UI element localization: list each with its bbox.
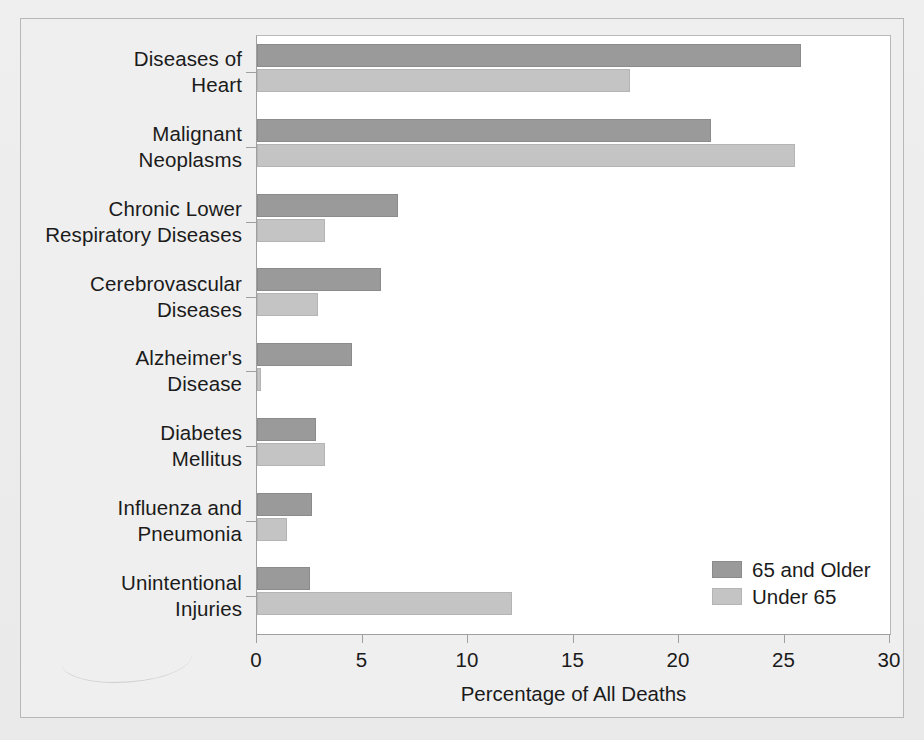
- category-axis-tick: [246, 72, 256, 73]
- value-axis-ticks: [256, 635, 891, 645]
- category-label-line: Alzheimer's: [30, 345, 242, 371]
- category-label: Influenza andPneumonia: [30, 495, 242, 547]
- category-axis-tick: [246, 521, 256, 522]
- value-axis-tick-label: 10: [456, 648, 479, 672]
- category-label-line: Respiratory Diseases: [30, 222, 242, 248]
- bar-older: [257, 567, 310, 590]
- value-axis-tick-label: 25: [772, 648, 795, 672]
- bar-under: [257, 69, 630, 92]
- category-axis-labels: Diseases ofHeartMalignantNeoplasmsChroni…: [30, 35, 252, 635]
- bar-group: [257, 485, 890, 560]
- bar-older: [257, 493, 312, 516]
- category-label-line: Injuries: [30, 596, 242, 622]
- value-axis-tick: [467, 635, 468, 643]
- value-axis-tick-label: 30: [878, 648, 901, 672]
- bar-under: [257, 219, 325, 242]
- bar-under: [257, 144, 795, 167]
- bar-group: [257, 260, 890, 335]
- legend: 65 and OlderUnder 65: [712, 556, 882, 610]
- category-label-line: Diabetes: [30, 420, 242, 446]
- figure-scan: Diseases ofHeartMalignantNeoplasmsChroni…: [0, 0, 924, 740]
- category-label: Alzheimer'sDisease: [30, 345, 242, 397]
- value-axis-title: Percentage of All Deaths: [256, 682, 891, 706]
- category-label-line: Chronic Lower: [30, 196, 242, 222]
- legend-item: Under 65: [712, 583, 882, 610]
- value-axis-tick: [362, 635, 363, 643]
- bar-group: [257, 111, 890, 186]
- legend-swatch-older: [712, 561, 742, 578]
- category-label-line: Neoplasms: [30, 147, 242, 173]
- bar-under: [257, 368, 261, 391]
- category-label-line: Mellitus: [30, 446, 242, 472]
- category-label: UnintentionalInjuries: [30, 570, 242, 622]
- category-label: MalignantNeoplasms: [30, 121, 242, 173]
- category-label-line: Unintentional: [30, 570, 242, 596]
- category-label: Chronic LowerRespiratory Diseases: [30, 196, 242, 248]
- bars-layer: [257, 36, 890, 634]
- category-axis-tick: [246, 222, 256, 223]
- bar-group: [257, 36, 890, 111]
- bar-under: [257, 293, 318, 316]
- plot-area: [256, 35, 891, 635]
- legend-swatch-under: [712, 588, 742, 605]
- bar-older: [257, 343, 352, 366]
- value-axis-tick: [889, 635, 890, 643]
- bar-group: [257, 335, 890, 410]
- category-axis-tick: [246, 147, 256, 148]
- bar-group: [257, 186, 890, 261]
- category-label: DiabetesMellitus: [30, 420, 242, 472]
- category-axis-tick: [246, 596, 256, 597]
- bar-under: [257, 592, 512, 615]
- value-axis-tick-label: 5: [356, 648, 367, 672]
- category-axis-tick: [246, 371, 256, 372]
- category-label-line: Pneumonia: [30, 521, 242, 547]
- category-label-line: Cerebrovascular: [30, 271, 242, 297]
- value-axis-tick-label: 20: [667, 648, 690, 672]
- value-axis-tick-label: 0: [250, 648, 261, 672]
- legend-item: 65 and Older: [712, 556, 882, 583]
- category-axis-tick: [246, 297, 256, 298]
- value-axis-tick-label: 15: [561, 648, 584, 672]
- legend-label: Under 65: [752, 585, 836, 609]
- bar-older: [257, 194, 398, 217]
- legend-label: 65 and Older: [752, 558, 871, 582]
- bar-under: [257, 518, 287, 541]
- bar-older: [257, 119, 711, 142]
- bar-older: [257, 418, 316, 441]
- value-axis-tick: [784, 635, 785, 643]
- category-label-line: Disease: [30, 371, 242, 397]
- category-label: CerebrovascularDiseases: [30, 271, 242, 323]
- category-label-line: Diseases: [30, 297, 242, 323]
- category-label-line: Heart: [30, 72, 242, 98]
- value-axis-tick: [573, 635, 574, 643]
- value-axis-tick: [256, 635, 257, 643]
- value-axis-tick: [678, 635, 679, 643]
- bar-group: [257, 410, 890, 485]
- bar-under: [257, 443, 325, 466]
- category-label-line: Malignant: [30, 121, 242, 147]
- category-label-line: Diseases of: [30, 46, 242, 72]
- category-axis-tick: [246, 446, 256, 447]
- category-label: Diseases ofHeart: [30, 46, 242, 98]
- bar-older: [257, 268, 381, 291]
- category-label-line: Influenza and: [30, 495, 242, 521]
- bar-older: [257, 44, 801, 67]
